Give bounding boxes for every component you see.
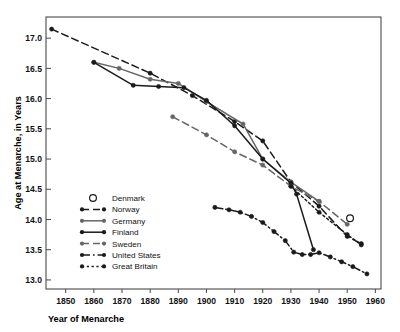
data-point: [50, 27, 54, 31]
data-point: [148, 71, 152, 75]
legend-marker-start: [80, 230, 84, 234]
data-point: [339, 260, 343, 264]
data-point: [213, 205, 217, 209]
data-point: [261, 163, 265, 167]
legend-marker-end: [102, 219, 106, 223]
data-point: [347, 215, 354, 222]
data-point: [182, 86, 186, 90]
data-point: [351, 265, 355, 269]
data-point: [317, 210, 321, 214]
legend-marker-end: [102, 207, 106, 211]
x-tick-label: 1890: [169, 296, 188, 306]
data-point: [227, 208, 231, 212]
data-point: [157, 84, 161, 88]
legend-marker: [90, 195, 97, 202]
data-point: [283, 239, 287, 243]
series-line: [94, 62, 319, 201]
legend-item-germany[interactable]: Germany: [80, 217, 146, 226]
data-point: [148, 77, 152, 81]
data-point: [345, 233, 349, 237]
menarche-age-line-chart: 1850186018701880189019001910192019301940…: [0, 0, 400, 332]
legend-marker-start: [80, 264, 84, 268]
y-tick-label: 16.5: [25, 64, 42, 74]
y-tick-label: 17.0: [25, 33, 42, 43]
legend-marker-end: [102, 242, 106, 246]
data-point: [238, 210, 242, 214]
data-point: [272, 229, 276, 233]
legend-label: Sweden: [112, 240, 141, 249]
legend-marker-end: [102, 264, 106, 268]
x-tick-label: 1880: [141, 296, 160, 306]
plot-frame: [46, 17, 381, 289]
legend-item-sweden[interactable]: Sweden: [80, 240, 141, 249]
data-point: [300, 252, 304, 256]
legend-item-great-britain[interactable]: Great Britain: [80, 262, 158, 271]
x-tick-label: 1870: [112, 296, 131, 306]
y-tick-label: 14.0: [25, 215, 42, 225]
legend-label: United States: [112, 251, 161, 260]
data-point: [261, 139, 265, 143]
y-tick-label: 14.5: [25, 184, 42, 194]
data-point: [92, 60, 96, 64]
data-point: [289, 184, 293, 188]
x-tick-label: 1860: [84, 296, 103, 306]
legend-item-norway[interactable]: Norway: [80, 205, 140, 214]
legend-label: Denmark: [112, 194, 146, 203]
series-line: [215, 207, 367, 273]
data-point: [233, 150, 237, 154]
data-point: [292, 250, 296, 254]
data-point: [176, 81, 180, 85]
data-point: [233, 124, 237, 128]
x-tick-label: 1930: [281, 296, 300, 306]
y-axis-title: Age at Menarche, in Years: [13, 96, 23, 210]
data-point: [345, 222, 349, 226]
legend-label: Finland: [112, 228, 139, 237]
legend-marker-start: [80, 219, 84, 223]
x-axis-title: Year of Menarche: [48, 314, 124, 324]
legend-marker-end: [102, 253, 106, 257]
y-tick-label: 15.5: [25, 124, 42, 134]
data-point: [204, 133, 208, 137]
x-tick-label: 1940: [310, 296, 329, 306]
x-tick-label: 1920: [253, 296, 272, 306]
data-point: [249, 214, 253, 218]
y-tick-label: 13.0: [25, 275, 42, 285]
series-denmark: [347, 215, 354, 222]
legend-label: Great Britain: [112, 262, 157, 271]
legend-label: Norway: [112, 205, 140, 214]
x-tick-label: 1960: [366, 296, 385, 306]
legend-marker-start: [80, 207, 84, 211]
data-point: [317, 199, 321, 203]
legend-marker-start: [80, 253, 84, 257]
x-tick-label: 1950: [338, 296, 357, 306]
y-tick-label: 15.0: [25, 154, 42, 164]
data-point: [204, 98, 208, 102]
x-tick-label: 1850: [56, 296, 75, 306]
x-tick-label: 1910: [225, 296, 244, 306]
data-point: [261, 220, 265, 224]
x-tick-label: 1900: [197, 296, 216, 306]
legend-item-denmark[interactable]: Denmark: [90, 194, 146, 203]
legend-item-finland[interactable]: Finland: [80, 228, 139, 237]
data-point: [131, 83, 135, 87]
y-tick-label: 13.5: [25, 245, 42, 255]
data-point: [261, 157, 265, 161]
data-point: [309, 252, 313, 256]
legend-marker-end: [102, 230, 106, 234]
data-point: [171, 115, 175, 119]
series-united-states: [213, 205, 369, 276]
data-point: [365, 272, 369, 276]
series-line: [173, 117, 348, 225]
data-point: [317, 204, 321, 208]
legend-label: Germany: [112, 217, 146, 226]
legend-item-united-states[interactable]: United States: [80, 251, 161, 260]
data-point: [317, 251, 321, 255]
data-point: [241, 122, 245, 126]
legend-marker-start: [80, 242, 84, 246]
data-point: [311, 248, 315, 252]
data-point: [328, 255, 332, 259]
chart-canvas: 1850186018701880189019001910192019301940…: [0, 0, 400, 332]
data-point: [117, 66, 121, 70]
y-tick-label: 16.0: [25, 94, 42, 104]
data-point: [359, 243, 363, 247]
